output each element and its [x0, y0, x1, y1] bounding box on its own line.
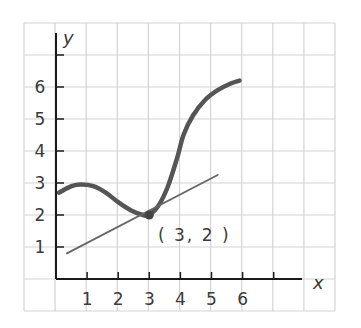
- chart: 123456123456 x y ( 3, 2 ): [0, 0, 361, 328]
- y-tick-label: 6: [35, 77, 46, 97]
- grid: [24, 23, 335, 311]
- x-tick-label: 6: [237, 289, 248, 309]
- y-tick-label: 2: [35, 205, 46, 225]
- y-axis-label: y: [62, 27, 74, 48]
- point-marker: [145, 211, 154, 220]
- points: [145, 211, 154, 220]
- x-tick-label: 1: [82, 289, 93, 309]
- x-tick-label: 3: [144, 289, 155, 309]
- y-tick-label: 3: [35, 173, 46, 193]
- x-tick-label: 5: [206, 289, 217, 309]
- point-label: ( 3, 2 ): [158, 225, 231, 245]
- tick-labels: 123456123456: [35, 77, 248, 309]
- x-tick-label: 4: [175, 289, 186, 309]
- y-tick-label: 5: [35, 109, 46, 129]
- y-tick-label: 1: [35, 237, 46, 257]
- y-tick-label: 4: [35, 141, 46, 161]
- ticks: [56, 55, 274, 279]
- x-axis-label: x: [312, 272, 324, 293]
- x-tick-label: 2: [113, 289, 124, 309]
